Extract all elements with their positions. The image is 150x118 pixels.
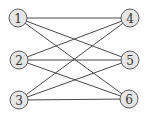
edges <box>18 18 130 100</box>
node-label: 5 <box>126 54 134 68</box>
node-5: 5 <box>121 51 139 69</box>
edge-3-6 <box>19 99 129 100</box>
node-label: 1 <box>14 12 22 26</box>
bipartite-graph: 123456 <box>0 0 150 118</box>
node-4: 4 <box>121 9 139 27</box>
edge-1-6 <box>18 18 129 99</box>
node-label: 6 <box>125 93 133 107</box>
node-3: 3 <box>10 91 28 109</box>
node-2: 2 <box>10 51 28 69</box>
node-1: 1 <box>9 9 27 27</box>
node-6: 6 <box>120 90 138 108</box>
node-label: 2 <box>15 54 23 68</box>
node-label: 4 <box>126 12 134 26</box>
node-label: 3 <box>15 94 23 108</box>
